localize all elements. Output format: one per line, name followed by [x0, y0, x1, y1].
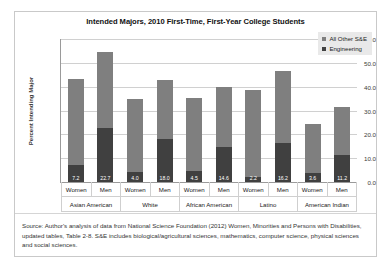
y-axis-title: Percent Intending Major [28, 61, 34, 161]
stacked-bar[interactable]: 3.6 [305, 124, 321, 182]
category-axis-group-label: Asian American [61, 197, 120, 212]
category-axis-label: Women [120, 182, 150, 197]
bar-data-label: 4.5 [186, 175, 202, 182]
bar-data-label: 16.2 [275, 175, 291, 182]
category-axis-group-label: White [120, 197, 179, 212]
bar-data-label: 7.2 [68, 175, 84, 182]
stacked-bar[interactable]: 2.2 [245, 90, 261, 182]
bar-group: 22.7 [91, 39, 121, 182]
bar-group: 16.2 [268, 39, 298, 182]
bar-segment-engineering[interactable]: 22.7 [97, 128, 113, 182]
category-axis-gender-row: WomenMenWomenMenWomenMenWomenMenWomenMen [61, 182, 357, 197]
bar-segment-engineering[interactable]: 14.6 [216, 147, 232, 182]
legend-label-engineering: Engineering [329, 45, 362, 52]
category-axis-group-label: African American [179, 197, 238, 212]
plot-area: 7.222.74.018.04.514.62.216.23.611.2 [61, 39, 357, 182]
bar-data-label: 2.2 [245, 175, 261, 182]
category-axis-label: Men [150, 182, 180, 197]
bar-group: 18.0 [150, 39, 180, 182]
stacked-bar[interactable]: 16.2 [275, 71, 291, 182]
bar-group: 11.2 [327, 39, 357, 182]
category-axis-label: Men [327, 182, 358, 197]
bar-segment-all-other-se[interactable] [216, 87, 232, 147]
category-axis-label: Men [209, 182, 239, 197]
category-axis-group-label: Latino [238, 197, 297, 212]
bar-segment-engineering[interactable]: 11.2 [334, 155, 350, 182]
stacked-bar[interactable]: 7.2 [68, 79, 84, 182]
bar-group: 7.2 [61, 39, 91, 182]
bar-segment-all-other-se[interactable] [157, 80, 173, 140]
bar-group: 4.5 [179, 39, 209, 182]
stacked-bar[interactable]: 18.0 [157, 80, 173, 182]
stacked-bar[interactable]: 4.5 [186, 98, 202, 182]
bar-data-label: 22.7 [97, 175, 113, 182]
category-axis-label: Men [91, 182, 121, 197]
bar-group: 2.2 [239, 39, 269, 182]
bar-data-label: 11.2 [334, 175, 350, 182]
source-note: Source: Author's analysis of data from N… [15, 215, 376, 250]
bar-data-label: 3.6 [305, 175, 321, 182]
bar-segment-engineering[interactable]: 3.6 [305, 173, 321, 182]
bar-segment-all-other-se[interactable] [245, 90, 261, 177]
bar-segment-all-other-se[interactable] [68, 79, 84, 165]
chart-title: Intended Majors, 2010 First-Time, First-… [15, 17, 376, 26]
bar-segment-all-other-se[interactable] [127, 99, 143, 173]
bar-segment-all-other-se[interactable] [186, 98, 202, 172]
legend-swatch-icon-all-other-se [322, 37, 326, 41]
figure-container: Intended Majors, 2010 First-Time, First-… [14, 11, 377, 257]
bar-data-label: 14.6 [216, 175, 232, 182]
category-axis-label: Women [179, 182, 209, 197]
stacked-bar[interactable]: 22.7 [97, 52, 113, 182]
bar-group: 14.6 [209, 39, 239, 182]
legend-swatch-icon-engineering [322, 47, 326, 51]
bar-segment-engineering[interactable]: 7.2 [68, 165, 84, 182]
bar-segment-engineering[interactable]: 4.5 [186, 171, 202, 182]
bar-data-label: 18.0 [157, 175, 173, 182]
chart-legend: All Other S&E Engineering [318, 32, 372, 55]
category-axis-label: Women [61, 182, 91, 197]
bar-segment-all-other-se[interactable] [305, 124, 321, 174]
legend-item-all-other-se: All Other S&E [322, 35, 367, 42]
chart-panel: Intended Majors, 2010 First-Time, First-… [15, 12, 376, 214]
category-axis-label: Women [297, 182, 327, 197]
stacked-bar[interactable]: 4.0 [127, 99, 143, 182]
stacked-bar[interactable]: 14.6 [216, 87, 232, 182]
category-axis-group-row: Asian AmericanWhiteAfrican AmericanLatin… [61, 197, 357, 212]
category-axis: WomenMenWomenMenWomenMenWomenMenWomenMen… [61, 182, 357, 212]
legend-item-engineering: Engineering [322, 45, 367, 52]
bar-segment-engineering[interactable]: 4.0 [127, 172, 143, 182]
bar-segment-engineering[interactable]: 16.2 [275, 143, 291, 182]
bar-data-label: 4.0 [127, 175, 143, 182]
bar-segment-all-other-se[interactable] [334, 107, 350, 155]
bar-group: 4.0 [120, 39, 150, 182]
stacked-bar[interactable]: 11.2 [334, 107, 350, 182]
legend-label-all-other-se: All Other S&E [329, 35, 367, 42]
category-axis-label: Men [268, 182, 298, 197]
bar-segment-all-other-se[interactable] [275, 71, 291, 143]
category-axis-group-label: American Indian [297, 197, 357, 212]
bar-group: 3.6 [298, 39, 328, 182]
bar-segment-all-other-se[interactable] [97, 52, 113, 128]
category-axis-label: Women [238, 182, 268, 197]
bar-segment-engineering[interactable]: 18.0 [157, 139, 173, 182]
